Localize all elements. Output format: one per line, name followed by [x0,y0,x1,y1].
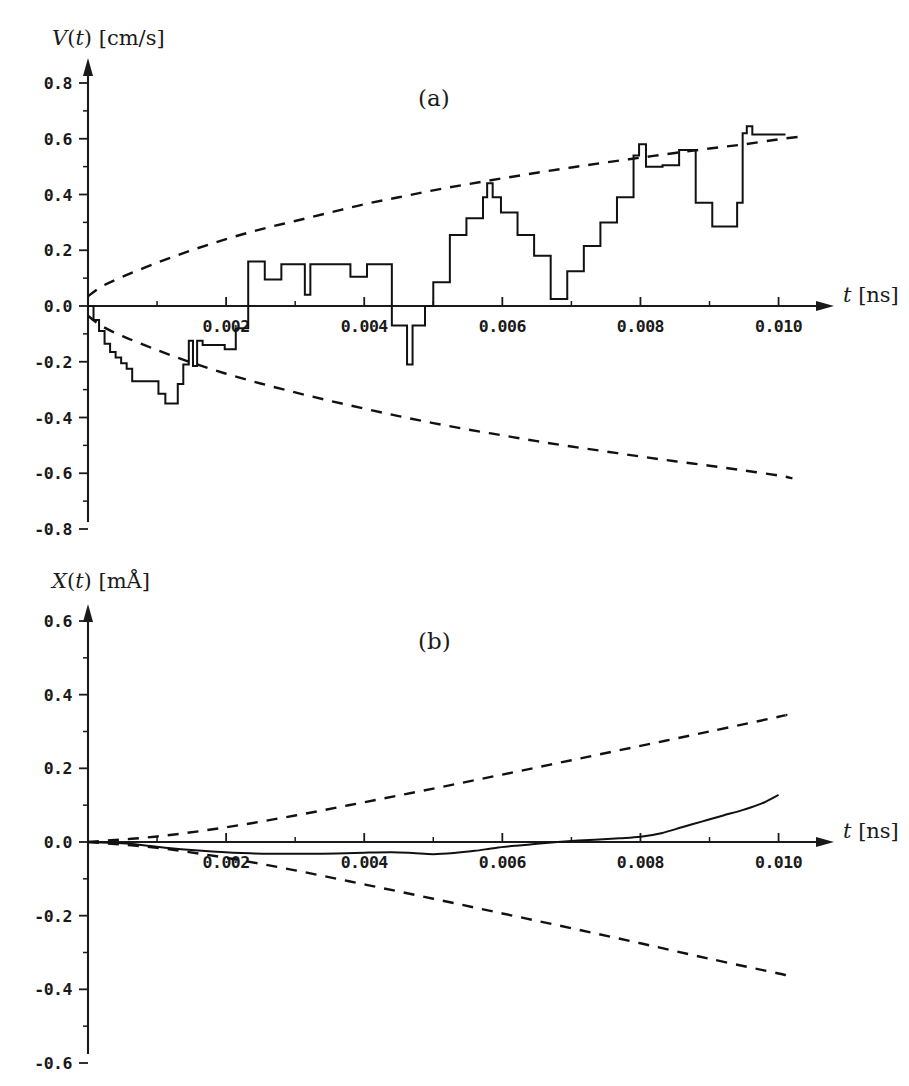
panel-b-axes [83,604,834,1053]
x-tick-label: 0.008 [617,853,664,872]
lower-envelope-curve-b [88,842,786,975]
y-axis-arrow-a [83,58,93,76]
y-axis-title-a: V(t) [cm/s] [52,26,165,50]
x-tick-label: 0.006 [479,317,527,336]
y-tick-label: 0.8 [44,74,72,93]
x-axis-title-b: t [ns] [843,819,899,843]
position-trajectory-curve [88,795,779,854]
upper-envelope-curve-a [88,136,806,296]
panel-b-curves [88,715,786,975]
y-tick-label: 0.4 [44,186,73,205]
y-tick-label: 0.6 [44,130,73,149]
y-tick-label: -0.2 [34,353,72,372]
y-tick-label: -0.4 [34,409,72,428]
panel-a-axes [83,58,834,521]
y-tick-label: 0.0 [44,297,72,316]
y-axis-title-b: X(t) [mÅ] [50,568,150,593]
y-axis-arrow-b [83,604,93,622]
y-tick-label: -0.2 [34,907,72,926]
panel-b-svg: 0.0020.0040.0060.0080.010-0.6-0.4-0.20.0… [0,543,909,1086]
y-tick-label: 0.2 [44,241,72,260]
y-tick-label: -0.8 [34,520,72,539]
x-tick-label: 0.010 [755,317,802,336]
upper-envelope-curve-b [88,715,786,842]
x-tick-label: 0.006 [479,853,527,872]
x-axis-arrow-b [816,837,834,847]
y-tick-label: 0.6 [44,612,73,631]
y-tick-label: -0.6 [34,464,72,483]
panel-a-svg: 0.0020.0040.0060.0080.010-0.8-0.6-0.4-0.… [0,0,909,543]
x-tick-label: 0.002 [203,317,250,336]
figure-root: 0.0020.0040.0060.0080.010-0.8-0.6-0.4-0.… [0,0,909,1086]
panel-a-curves [88,126,806,478]
y-tick-label: 0.4 [44,686,73,705]
y-tick-label: -0.4 [34,980,72,999]
panel-tag-b: (b) [418,628,451,654]
panel-a-velocity: 0.0020.0040.0060.0080.010-0.8-0.6-0.4-0.… [0,0,909,543]
y-tick-label: -0.6 [34,1054,72,1073]
panel-tag-a: (a) [418,85,450,111]
x-tick-label: 0.004 [341,853,389,872]
x-axis-title-a: t [ns] [843,283,899,307]
x-axis-arrow-a [816,301,834,311]
panel-b-position: 0.0020.0040.0060.0080.010-0.6-0.4-0.20.0… [0,543,909,1086]
velocity-step-trajectory [88,126,785,403]
x-tick-label: 0.008 [617,317,664,336]
x-tick-label: 0.010 [755,853,802,872]
x-tick-label: 0.004 [341,317,389,336]
y-tick-label: 0.2 [44,759,72,778]
y-tick-label: 0.0 [44,833,72,852]
